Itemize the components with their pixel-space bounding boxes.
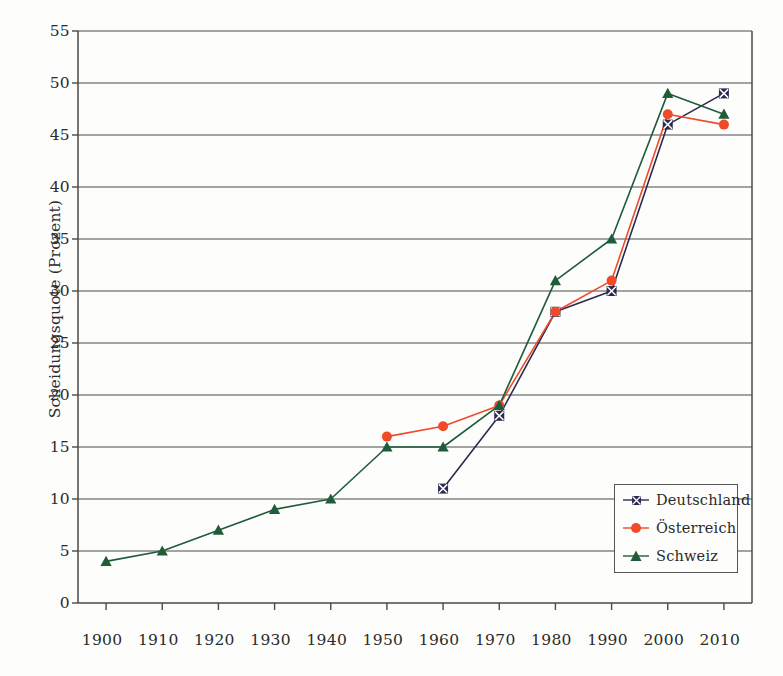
x-tick-label: 1900 [82,631,123,649]
legend-label-schweiz: Schweiz [656,548,718,564]
legend-label-oesterreich: Österreich [656,520,736,536]
x-tick-label: 1940 [306,631,347,649]
data-point-deutschland-1970 [494,411,504,421]
legend-item-oesterreich[interactable]: Österreich [623,516,736,540]
plot-area [0,0,783,676]
legend-item-schweiz[interactable]: Schweiz [623,544,718,568]
legend-item-deutschland[interactable]: Deutschland [623,488,750,512]
x-tick-label: 2000 [643,631,684,649]
x-tick-label: 1960 [419,631,460,649]
legend: Deutschland Österreich Schweiz [614,484,738,573]
line-chart: Scheidungsquote (Prozent) 05101520253035… [0,0,783,676]
x-tick-label: 2010 [700,631,741,649]
legend-label-deutschland: Deutschland [656,492,750,508]
x-tick-label: 1990 [587,631,628,649]
x-tick-label: 1910 [138,631,179,649]
x-square-icon [623,492,649,508]
data-point-schweiz-2000 [662,88,673,98]
data-point-schweiz-2010 [718,109,729,119]
x-tick-label: 1950 [363,631,404,649]
data-point-österreich-1950 [382,432,392,442]
data-point-deutschland-1960 [438,484,448,494]
circle-icon [623,520,649,536]
data-point-schweiz-1920 [213,525,224,535]
data-point-schweiz-1980 [550,275,561,285]
triangle-icon [623,548,649,564]
data-point-österreich-2010 [719,120,729,130]
data-point-österreich-2000 [663,109,673,119]
x-tick-label: 1920 [194,631,235,649]
x-tick-label: 1930 [250,631,291,649]
data-point-deutschland-2010 [719,88,729,98]
data-point-österreich-1980 [550,307,560,317]
data-point-deutschland-2000 [663,120,673,130]
data-point-deutschland-1990 [607,286,617,296]
x-tick-label: 1970 [475,631,516,649]
data-point-österreich-1960 [438,421,448,431]
x-tick-label: 1980 [531,631,572,649]
data-point-österreich-1990 [607,276,617,286]
